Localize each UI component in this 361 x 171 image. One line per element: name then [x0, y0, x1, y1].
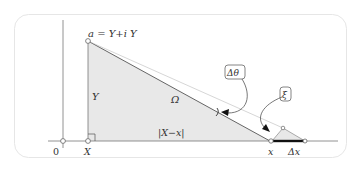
x-label: x — [268, 146, 274, 157]
region-label: Ω — [170, 94, 179, 105]
base-label: |X−x| — [158, 127, 184, 139]
origin-label: 0 — [53, 146, 59, 157]
delta-theta-label: Δθ — [226, 68, 239, 78]
apex-point — [86, 39, 91, 44]
xi-point — [281, 126, 285, 130]
foot-label: X — [83, 146, 92, 157]
foot-point — [86, 139, 91, 144]
delta-x-label: Δx — [287, 146, 301, 157]
origin-point — [61, 139, 66, 144]
x-point — [269, 139, 273, 143]
complex-plane-diagram: a = Y+i Y Y Ω |X−x| 0 X x Δx Δθ ξ — [0, 0, 361, 171]
delta-x-endpoint — [303, 139, 307, 143]
apex-label: a = Y+i Y — [88, 28, 138, 39]
